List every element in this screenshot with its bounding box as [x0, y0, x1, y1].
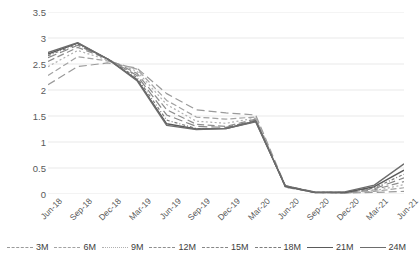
- y-tick-label: 1: [16, 137, 46, 148]
- y-tick-label: 3.5: [16, 7, 46, 18]
- legend-label: 6M: [83, 242, 96, 252]
- legend-swatch-icon: [7, 247, 33, 248]
- legend-item-12m[interactable]: 12M: [146, 242, 199, 252]
- legend-item-18m[interactable]: 18M: [252, 242, 305, 252]
- series-line-18m: [48, 44, 404, 192]
- plot-area: [48, 12, 404, 194]
- legend-swatch-icon: [202, 247, 228, 248]
- legend-label: 15M: [231, 242, 249, 252]
- legend-label: 21M: [336, 242, 354, 252]
- y-tick-label: 2: [16, 85, 46, 96]
- x-axis-tick-labels: Jun-18Sep-18Dec-18Mar-19Jun-19Sep-19Dec-…: [48, 196, 404, 238]
- legend-swatch-icon: [102, 247, 128, 248]
- legend-item-21m[interactable]: 21M: [304, 242, 357, 252]
- series-line-12m: [48, 47, 404, 193]
- legend-swatch-icon: [149, 247, 175, 248]
- legend-swatch-icon: [255, 247, 281, 248]
- legend-item-9m[interactable]: 9M: [99, 242, 147, 252]
- series-line-24m: [48, 43, 404, 193]
- y-tick-label: 0.5: [16, 163, 46, 174]
- legend-item-15m[interactable]: 15M: [199, 242, 252, 252]
- legend-label: 18M: [284, 242, 302, 252]
- y-tick-label: 1.5: [16, 111, 46, 122]
- legend-item-24m[interactable]: 24M: [357, 242, 410, 252]
- legend-item-6m[interactable]: 6M: [51, 242, 99, 252]
- legend-swatch-icon: [307, 247, 333, 248]
- legend-swatch-icon: [54, 247, 80, 248]
- chart-legend: 3M6M9M12M15M18M21M24M: [0, 236, 413, 258]
- y-tick-label: 0: [16, 189, 46, 200]
- series-line-21m: [48, 43, 404, 192]
- series-line-9m: [48, 50, 404, 192]
- series-line-6m: [48, 57, 404, 193]
- legend-label: 3M: [36, 242, 49, 252]
- legend-label: 12M: [178, 242, 196, 252]
- y-tick-label: 3: [16, 33, 46, 44]
- legend-swatch-icon: [360, 247, 386, 248]
- legend-item-3m[interactable]: 3M: [4, 242, 52, 252]
- legend-label: 24M: [389, 242, 407, 252]
- y-tick-label: 2.5: [16, 59, 46, 70]
- legend-label: 9M: [131, 242, 144, 252]
- series-canvas: [48, 12, 404, 194]
